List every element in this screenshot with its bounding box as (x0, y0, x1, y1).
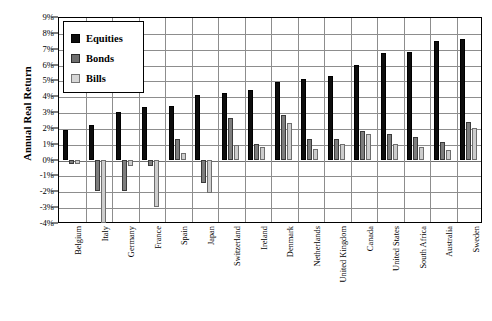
y-axis-tick-mark (51, 32, 58, 33)
y-axis-tick-mark (51, 175, 58, 176)
x-axis-label-germany: Germany (127, 226, 136, 257)
x-axis-labels: BelgiumItalyGermanyFranceSpainJapanSwitz… (58, 226, 482, 321)
x-axis-label-netherlands: Netherlands (313, 226, 322, 266)
x-axis-label-south-africa: South Africa (419, 226, 428, 269)
y-axis-tick-mark (51, 48, 58, 49)
x-axis-label-switzerland: Switzerland (233, 226, 242, 266)
x-axis-label-france: France (154, 226, 163, 249)
y-axis-tick-label: 0% (20, 155, 54, 165)
legend-item-bonds: Bonds (71, 48, 143, 68)
y-axis-tick-label: 3% (20, 107, 54, 117)
gridline-vertical (192, 18, 193, 222)
gridline-horizontal (59, 129, 481, 130)
gridline-vertical (377, 18, 378, 222)
y-axis-tick-label: 7% (20, 44, 54, 54)
x-axis-label-denmark: Denmark (286, 226, 295, 257)
y-axis-tick-label: 8% (20, 28, 54, 38)
y-axis-tick-mark (51, 64, 58, 65)
y-axis-tick-mark (51, 17, 58, 18)
y-axis-tick-mark (51, 143, 58, 144)
y-axis-tick-mark (51, 96, 58, 97)
y-axis-tick-label: 1% (20, 139, 54, 149)
gridline-vertical (430, 18, 431, 222)
gridline-horizontal (59, 176, 481, 177)
y-axis-tick-mark (51, 207, 58, 208)
equities-swatch-icon (71, 34, 80, 43)
gridline-horizontal (59, 192, 481, 193)
y-axis-tick-label: -4% (20, 218, 54, 228)
x-axis-label-belgium: Belgium (74, 226, 83, 255)
y-axis-tick-label: 6% (20, 60, 54, 70)
x-axis-label-italy: Italy (101, 226, 110, 241)
legend-item-equities: Equities (71, 28, 143, 48)
bar-chart: Annual Real Return 9%8%7%6%5%4%3%2%1%0%-… (0, 0, 492, 321)
y-axis-tick-mark (51, 127, 58, 128)
gridline-horizontal (59, 208, 481, 209)
x-axis-label-japan: Japan (207, 226, 216, 245)
y-axis-tick-label: 2% (20, 123, 54, 133)
x-axis-label-united-kingdom: United Kingdom (339, 226, 348, 283)
gridline-vertical (351, 18, 352, 222)
x-axis-label-united-states: United States (392, 226, 401, 271)
y-axis-tick-mark (51, 112, 58, 113)
x-axis-label-sweden: Sweden (472, 226, 481, 253)
y-axis-tick-label: 9% (20, 12, 54, 22)
y-axis-tick-mark (51, 80, 58, 81)
y-axis-tick-label: -3% (20, 202, 54, 212)
legend-item-label: Equities (86, 33, 123, 44)
gridline-vertical (218, 18, 219, 222)
gridline-vertical (404, 18, 405, 222)
gridline-vertical (165, 18, 166, 222)
y-axis-tick-mark (51, 159, 58, 160)
gridline-horizontal (59, 145, 481, 146)
gridline-vertical (271, 18, 272, 222)
y-axis-tick-mark (51, 191, 58, 192)
y-axis-tick-mark (51, 223, 58, 224)
gridline-vertical (324, 18, 325, 222)
y-axis-tick-label: 4% (20, 91, 54, 101)
legend-item-bills: Bills (71, 68, 143, 88)
legend: EquitiesBondsBills (63, 21, 144, 93)
gridline-horizontal (59, 97, 481, 98)
x-axis-label-australia: Australia (445, 226, 454, 257)
x-axis-label-spain: Spain (180, 226, 189, 245)
gridline-vertical (298, 18, 299, 222)
y-axis-tick-label: 5% (20, 75, 54, 85)
y-axis-tick-label: -1% (20, 170, 54, 180)
gridline-vertical (457, 18, 458, 222)
gridline-vertical (245, 18, 246, 222)
legend-item-label: Bills (86, 73, 106, 84)
x-axis-label-canada: Canada (366, 226, 375, 251)
gridline-horizontal (59, 161, 481, 162)
gridline-horizontal (59, 113, 481, 114)
x-axis-label-ireland: Ireland (260, 226, 269, 250)
legend-item-label: Bonds (86, 53, 114, 64)
y-axis-tick-label: -2% (20, 186, 54, 196)
bonds-swatch-icon (71, 54, 80, 63)
bills-swatch-icon (71, 74, 80, 83)
